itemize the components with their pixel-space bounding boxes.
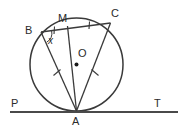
label-point-c: C: [111, 8, 119, 19]
label-point-m: M: [58, 13, 67, 24]
label-point-o: O: [78, 48, 87, 59]
tick-mc-icon: [89, 22, 90, 30]
center-point-dot-icon: [75, 63, 79, 67]
label-point-t: T: [154, 98, 161, 109]
segment-am: [68, 26, 77, 111]
segment-ac: [77, 23, 111, 111]
tick-bm-icon: [54, 27, 55, 35]
label-point-p: P: [11, 98, 18, 109]
geometry-canvas: [0, 0, 188, 132]
tick-ac-icon: [92, 70, 99, 76]
label-point-b: B: [25, 25, 32, 36]
label-point-a: A: [72, 116, 79, 127]
label-angle-x: x: [48, 35, 53, 46]
geometry-figure: B M C O A P T x: [0, 0, 188, 132]
